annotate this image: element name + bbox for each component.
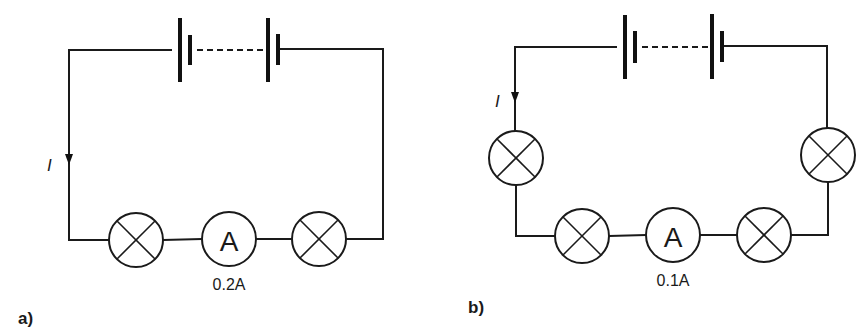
circuit-a-wire-right — [280, 49, 383, 239]
circuit-a-panel-label: a) — [18, 309, 33, 328]
circuit-b-ammeter-reading: 0.1A — [657, 272, 690, 289]
circuit-a-lamp-1 — [109, 213, 163, 267]
circuit-b-current-label: I — [495, 92, 500, 111]
current-arrow-icon — [65, 154, 73, 165]
circuit-b-wire-top-left — [515, 47, 617, 131]
circuit-b-wire-top-right — [724, 46, 827, 128]
circuit-b-wire-left-bottom — [516, 185, 555, 236]
circuit-b-ammeter: A — [646, 208, 700, 262]
circuit-diagrams: I A 0.2A a) — [0, 0, 864, 332]
circuit-b-lamp-bottom-2 — [737, 208, 791, 262]
circuit-b-lamp-left — [489, 131, 543, 185]
circuit-b-wire-lamp-ammeter — [609, 235, 646, 236]
circuit-a-wire-lamp1-ammeter — [163, 239, 202, 240]
circuit-b-lamp-bottom-1 — [555, 209, 609, 263]
circuit-a-lamp-2 — [292, 212, 346, 266]
circuit-a-current-label: I — [47, 156, 52, 175]
circuit-b-wire-right-bottom — [791, 182, 828, 235]
circuit-b-battery — [625, 14, 722, 79]
circuit-a-battery — [180, 18, 278, 82]
circuit-a: I A 0.2A a) — [18, 18, 383, 328]
circuit-a-wire-left — [69, 50, 172, 240]
circuit-b-lamp-right — [801, 128, 855, 182]
ammeter-symbol: A — [664, 222, 683, 253]
circuit-a-ammeter: A — [202, 212, 256, 266]
circuit-a-ammeter-reading: 0.2A — [213, 276, 246, 293]
circuit-b-panel-label: b) — [468, 298, 484, 317]
current-arrow-icon — [511, 92, 519, 103]
circuit-b: I A 0.1A b) — [468, 14, 855, 317]
ammeter-symbol: A — [220, 226, 239, 257]
